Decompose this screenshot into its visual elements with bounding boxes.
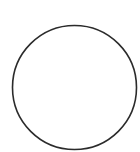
circle-shape bbox=[13, 26, 137, 150]
diagram-canvas bbox=[0, 0, 140, 152]
